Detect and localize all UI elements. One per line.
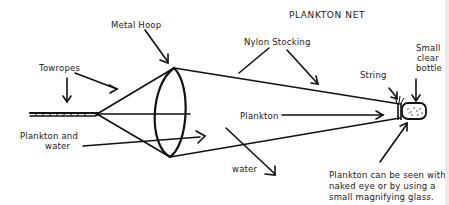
label-bottle-line3: bottle — [416, 63, 442, 73]
diagram-title: PLANKTON NET — [289, 10, 365, 20]
label-metal-hoop: Metal Hoop — [111, 20, 161, 30]
towrope-line-top — [97, 68, 174, 114]
note-line2: naked eye or by using a — [329, 181, 436, 191]
label-water: water — [232, 164, 257, 174]
towrope-icon — [30, 112, 99, 116]
towrope-line-bottom — [97, 114, 170, 157]
label-towropes: Towropes — [39, 63, 80, 73]
metal-hoop-arrow — [145, 30, 168, 62]
plankton-net-diagram: PLANKTON NET Metal Hoop Towropes Nylon S… — [0, 0, 449, 205]
label-bottle-line2: clear — [417, 53, 439, 63]
string-arrow — [389, 88, 397, 98]
nylon-stocking-arrow-right — [287, 50, 318, 84]
label-plankton: Plankton — [240, 111, 279, 121]
note-arrow — [380, 124, 407, 162]
note-line1: Plankton can be seen with — [329, 170, 446, 180]
plankton-water-arrow — [83, 137, 200, 146]
note-line3: small magnifying glass. — [329, 192, 434, 202]
label-bottle-line1: Small — [416, 43, 441, 53]
label-plankton-water-line1: Plankton and — [20, 131, 78, 141]
label-string: String — [360, 70, 387, 80]
label-plankton-water-line2: water — [45, 141, 70, 151]
bottle-icon — [402, 103, 426, 119]
metal-hoop-icon — [155, 68, 186, 157]
nylon-stocking-arrow-left — [239, 48, 269, 73]
label-nylon-stocking: Nylon Stocking — [244, 37, 311, 47]
page-edge-shadow — [445, 0, 449, 205]
